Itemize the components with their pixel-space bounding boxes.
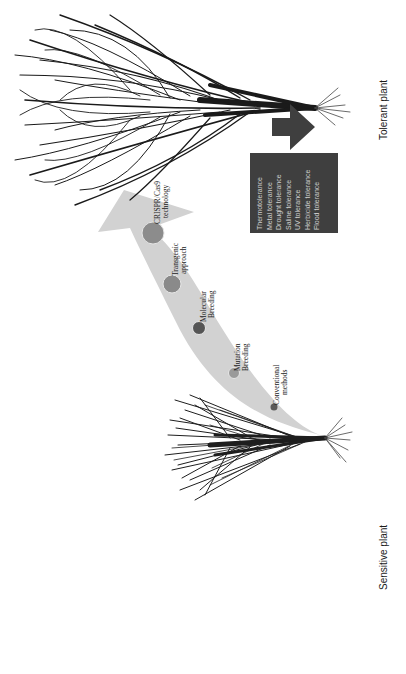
step-label: Molecular Breeding [199, 289, 216, 322]
step-label: Mutation Breeding [233, 342, 250, 371]
tolerance-item: Herbicide tolerance [304, 170, 311, 230]
tolerant-plant-label: Tolerant plant [378, 80, 389, 140]
step-dot-icon [163, 275, 181, 293]
tolerance-item: UV tolerance [294, 189, 301, 230]
diagram-canvas: Conventional methods Mutation Breeding M… [0, 0, 406, 674]
tolerance-item: Drought tolerance [275, 174, 283, 230]
tolerance-item: Metal tolerance [266, 182, 273, 230]
tolerance-item: Thermotolerance [256, 177, 263, 230]
tolerance-item: Saline tolerance [285, 180, 292, 230]
tolerance-box: Thermotolerance Metal tolerance Drought … [250, 153, 338, 233]
step-label: Transgenic approach [171, 241, 188, 276]
step-label: Conventional methods [272, 363, 289, 405]
tolerance-item: Flood tolerance [313, 182, 320, 230]
step-dot-icon [142, 222, 164, 244]
step-dot-icon [193, 322, 206, 335]
sensitive-plant-label: Sensitive plant [378, 525, 389, 590]
step-label: CRISPR/Cas9 technology [153, 179, 170, 224]
step-conventional: Conventional methods [271, 363, 290, 411]
